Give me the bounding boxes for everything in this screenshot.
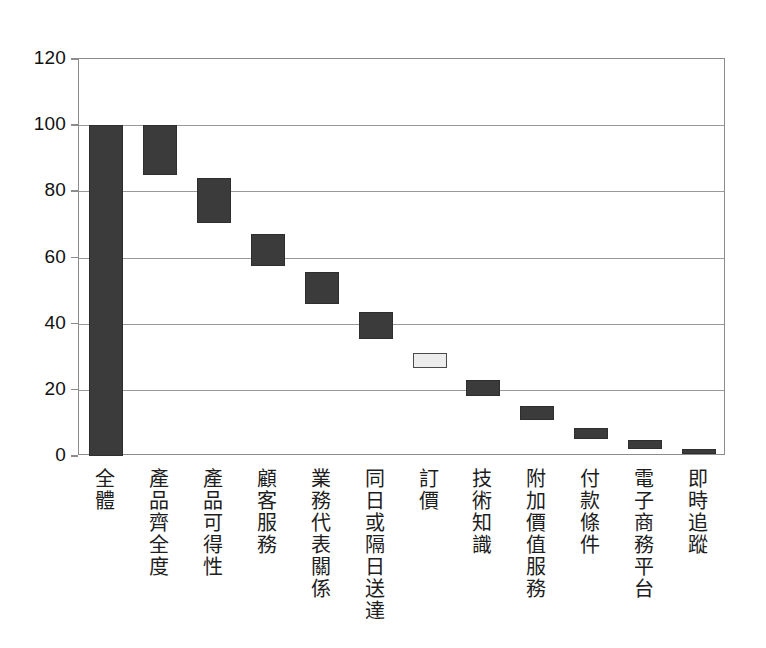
label-char: 關 (304, 556, 338, 578)
label-char: 附 (519, 468, 553, 490)
label-char: 追 (681, 512, 715, 534)
bar-3 (197, 178, 231, 223)
label-char: 時 (681, 490, 715, 512)
label-char: 全 (142, 534, 176, 556)
label-char: 技 (465, 468, 499, 490)
bar-8 (466, 380, 500, 397)
label-char: 值 (519, 534, 553, 556)
label-char: 可 (196, 512, 230, 534)
x-axis-label-6: 同日或隔日送達 (358, 468, 392, 622)
label-char: 全 (88, 468, 122, 490)
y-axis-tick-label: 20 (0, 378, 66, 400)
plot-area (78, 58, 725, 455)
bar-6 (359, 312, 393, 339)
bar-9 (520, 406, 554, 419)
label-char: 同 (358, 468, 392, 490)
x-axis-label-4: 顧客服務 (250, 468, 284, 556)
label-char: 術 (465, 490, 499, 512)
bar-5 (305, 272, 339, 303)
label-char: 價 (519, 512, 553, 534)
y-axis-tick-label: 60 (0, 246, 66, 268)
label-char: 送 (358, 578, 392, 600)
label-char: 品 (196, 490, 230, 512)
label-char: 電 (627, 468, 661, 490)
y-axis-tick-label: 80 (0, 179, 66, 201)
gridline (79, 258, 724, 259)
bar-1 (89, 125, 123, 456)
label-char: 達 (358, 600, 392, 622)
gridline (79, 390, 724, 391)
label-char: 表 (304, 534, 338, 556)
label-char: 子 (627, 490, 661, 512)
label-char: 服 (250, 512, 284, 534)
label-char: 平 (627, 556, 661, 578)
label-char: 價 (412, 490, 446, 512)
label-char: 務 (304, 490, 338, 512)
waterfall-chart: 020406080100120 全體產品齊全度產品可得性顧客服務業務代表關係同日… (0, 0, 766, 648)
gridline (79, 324, 724, 325)
label-char: 顧 (250, 468, 284, 490)
x-axis-label-9: 附加價值服務 (519, 468, 553, 600)
label-char: 產 (142, 468, 176, 490)
label-char: 知 (465, 512, 499, 534)
y-axis-tick-mark (71, 455, 78, 457)
x-axis-label-3: 產品可得性 (196, 468, 230, 578)
label-char: 台 (627, 578, 661, 600)
label-char: 業 (304, 468, 338, 490)
label-char: 條 (573, 512, 607, 534)
label-char: 日 (358, 556, 392, 578)
label-char: 務 (250, 534, 284, 556)
label-char: 隔 (358, 534, 392, 556)
bar-12 (682, 449, 716, 454)
y-axis-tick-label: 40 (0, 312, 66, 334)
label-char: 蹤 (681, 534, 715, 556)
y-axis-tick-mark (71, 323, 78, 325)
x-axis-label-2: 產品齊全度 (142, 468, 176, 578)
x-axis-label-5: 業務代表關係 (304, 468, 338, 600)
x-axis-label-8: 技術知識 (465, 468, 499, 556)
bar-2 (143, 125, 177, 175)
label-char: 加 (519, 490, 553, 512)
label-char: 即 (681, 468, 715, 490)
y-axis-tick-label: 0 (0, 444, 66, 466)
gridline (79, 191, 724, 192)
label-char: 務 (519, 578, 553, 600)
y-axis-tick-mark (71, 257, 78, 259)
label-char: 商 (627, 512, 661, 534)
label-char: 客 (250, 490, 284, 512)
y-axis-tick-label: 120 (0, 47, 66, 69)
bar-10 (574, 428, 608, 440)
x-axis-label-12: 即時追蹤 (681, 468, 715, 556)
label-char: 件 (573, 534, 607, 556)
label-char: 款 (573, 490, 607, 512)
label-char: 識 (465, 534, 499, 556)
label-char: 得 (196, 534, 230, 556)
label-char: 產 (196, 468, 230, 490)
bar-7 (413, 353, 447, 368)
label-char: 代 (304, 512, 338, 534)
label-char: 齊 (142, 512, 176, 534)
y-axis-tick-label: 100 (0, 113, 66, 135)
bar-4 (251, 234, 285, 265)
label-char: 訂 (412, 468, 446, 490)
label-char: 服 (519, 556, 553, 578)
label-char: 性 (196, 556, 230, 578)
label-char: 係 (304, 578, 338, 600)
label-char: 品 (142, 490, 176, 512)
label-char: 務 (627, 534, 661, 556)
x-axis-label-7: 訂價 (412, 468, 446, 512)
y-axis-tick-mark (71, 389, 78, 391)
label-char: 或 (358, 512, 392, 534)
x-axis-label-1: 全體 (88, 468, 122, 512)
x-axis-label-11: 電子商務平台 (627, 468, 661, 600)
label-char: 體 (88, 490, 122, 512)
y-axis-tick-mark (71, 58, 78, 60)
label-char: 付 (573, 468, 607, 490)
bar-11 (628, 440, 662, 450)
x-axis-label-10: 付款條件 (573, 468, 607, 556)
label-char: 日 (358, 490, 392, 512)
label-char: 度 (142, 556, 176, 578)
y-axis-tick-mark (71, 124, 78, 126)
y-axis-tick-mark (71, 190, 78, 192)
